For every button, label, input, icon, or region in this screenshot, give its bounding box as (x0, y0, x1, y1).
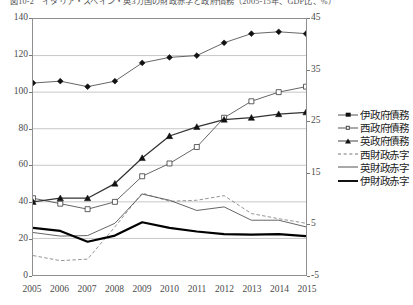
data-point (85, 84, 91, 90)
left-axis-tickmark (29, 55, 32, 56)
legend-item-5[interactable]: 英財政赤字 (338, 161, 413, 174)
data-point (139, 60, 145, 66)
left-axis-tickmark (29, 202, 32, 203)
legend-item-4[interactable]: 西財政赤字 (338, 148, 413, 161)
left-tick-label: 140 (2, 12, 28, 22)
legend-marker-icon (338, 148, 358, 161)
left-axis-tickmark (29, 129, 32, 130)
data-point (85, 207, 90, 212)
data-point (58, 201, 63, 206)
left-axis-tickmark (29, 276, 32, 277)
legend-item-3[interactable]: 英政府債務 (338, 134, 413, 147)
right-tick-label: 25 (311, 115, 337, 125)
right-axis-tickmark (307, 121, 310, 122)
plot-area (32, 18, 307, 276)
data-point (194, 53, 200, 59)
series-line-2 (33, 87, 306, 210)
chart-legend: 伊政府債務西政府債務英政府債務西財政赤字英財政赤字伊財政赤字 (338, 108, 413, 187)
right-tick-label: -5 (311, 270, 337, 280)
legend-symbol-icon (346, 126, 350, 130)
legend-marker-icon (338, 161, 358, 174)
left-axis-tickmark (29, 239, 32, 240)
right-tick-label: 45 (311, 12, 337, 22)
legend-marker-icon (338, 134, 358, 147)
legend-marker-icon (338, 108, 358, 121)
series-line-5 (33, 194, 306, 236)
legend-item-label: 伊財政赤字 (360, 173, 409, 188)
data-point (33, 80, 36, 86)
data-point (112, 199, 117, 204)
right-axis-tickmark (307, 70, 310, 71)
left-tick-label: 80 (2, 123, 28, 133)
data-point (194, 145, 199, 150)
right-axis-tickmark (307, 224, 310, 225)
data-point (221, 40, 227, 46)
legend-item-1[interactable]: 伊政府債務 (338, 108, 413, 121)
data-point (167, 161, 172, 166)
x-tick-label: 2015 (290, 284, 324, 294)
legend-marker-icon (338, 121, 358, 134)
data-point (167, 55, 173, 61)
legend-item-2[interactable]: 西政府債務 (338, 121, 413, 134)
data-layer (33, 19, 306, 275)
data-point (249, 31, 255, 37)
data-point (112, 78, 118, 84)
left-tick-label: 100 (2, 86, 28, 96)
right-axis-tickmark (307, 18, 310, 19)
left-tick-label: 60 (2, 159, 28, 169)
left-tick-label: 120 (2, 49, 28, 59)
series-line-6 (33, 222, 306, 241)
legend-symbol-icon (345, 138, 351, 143)
right-tick-label: 35 (311, 64, 337, 74)
data-point (303, 31, 306, 37)
left-axis-tickmark (29, 18, 32, 19)
right-tick-label: 15 (311, 167, 337, 177)
data-point (276, 90, 281, 95)
figure-title: 図10-2 イタリア・スペイン・英3カ国の財政赤字と政府債務（2005-15年、… (10, 0, 410, 7)
data-point (276, 29, 282, 35)
left-tick-label: 0 (2, 270, 28, 280)
legend-symbol-icon (346, 112, 351, 117)
data-point (304, 84, 306, 89)
right-axis-tickmark (307, 276, 310, 277)
data-point (57, 78, 63, 84)
data-point (140, 174, 145, 179)
right-axis-tickmark (307, 173, 310, 174)
right-tick-label: 5 (311, 218, 337, 228)
left-axis-tickmark (29, 92, 32, 93)
figure-container: 図10-2 イタリア・スペイン・英3カ国の財政赤字と政府債務（2005-15年、… (0, 0, 413, 305)
legend-marker-icon (338, 174, 358, 187)
series-line-3 (33, 112, 306, 202)
left-tick-label: 40 (2, 196, 28, 206)
left-tick-label: 20 (2, 233, 28, 243)
data-point (249, 99, 254, 104)
left-axis-tickmark (29, 165, 32, 166)
legend-item-6[interactable]: 伊財政赤字 (338, 174, 413, 187)
